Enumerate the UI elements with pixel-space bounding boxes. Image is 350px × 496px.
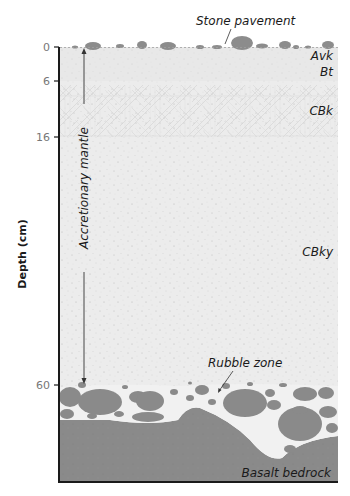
axis-title: Depth (cm) [16,219,29,288]
horizon-label-cbky: CBky [302,245,334,259]
stone-pavement-label: Stone pavement [196,14,297,28]
stone-pavement-leader [225,29,231,44]
horizon-label-bt: Bt [320,65,334,79]
tick-label-6: 6 [43,75,50,88]
horizon-label-avk: Avk [310,49,334,63]
accretionary-mantle-label: Accretionary mantle [77,127,91,250]
horizon-label-cbk: CBk [309,104,334,118]
tick-label-16: 16 [36,131,50,144]
horizon-avk-bt [60,47,338,81]
tick-label-0: 0 [43,41,50,54]
soil-profile-diagram: 0 6 16 60 Depth (cm) Accretionary mantle… [0,0,350,496]
rubble-zone-label: Rubble zone [208,356,282,370]
bedrock-label: Basalt bedrock [242,466,333,480]
tick-label-60: 60 [36,379,50,392]
